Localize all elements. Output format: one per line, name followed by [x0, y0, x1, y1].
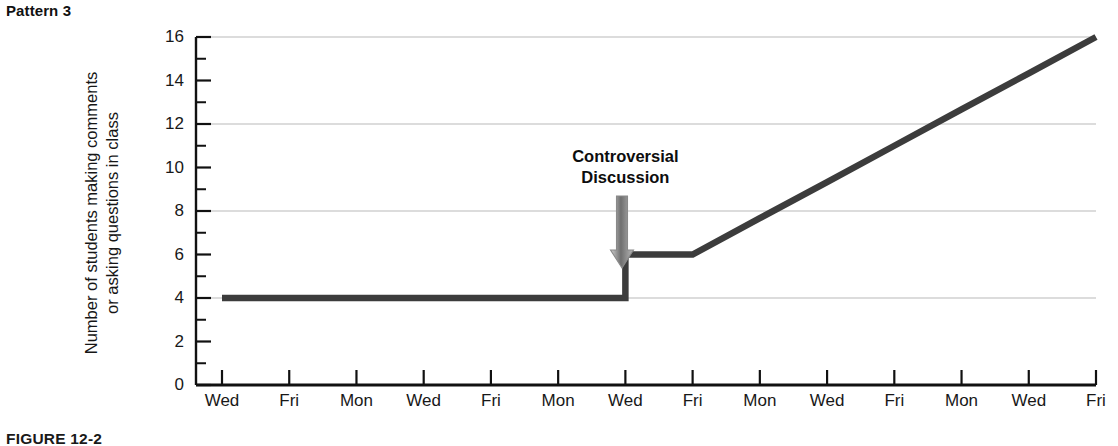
- x-axis-tick-label: Mon: [927, 392, 997, 409]
- y-axis-tick-label: 14: [140, 72, 184, 89]
- x-axis-tick-label: Fri: [859, 392, 929, 409]
- x-axis-ticks: [222, 370, 1096, 385]
- y-axis-tick-label: 12: [140, 115, 184, 132]
- chart-annotation: Controversial Discussion: [515, 146, 735, 188]
- x-axis-tick-label: Fri: [658, 392, 728, 409]
- y-axis-tick-label: 4: [140, 289, 184, 306]
- x-axis-tick-label: Wed: [389, 392, 459, 409]
- x-axis-tick-label: Wed: [994, 392, 1064, 409]
- x-axis-tick-label: Fri: [456, 392, 526, 409]
- y-axis-major-ticks: [196, 37, 211, 385]
- y-axis-tick-label: 0: [140, 376, 184, 393]
- x-axis-tick-label: Wed: [187, 392, 257, 409]
- y-axis-tick-label: 2: [140, 333, 184, 350]
- x-axis-tick-label: Mon: [321, 392, 391, 409]
- y-axis-tick-label: 8: [140, 202, 184, 219]
- figure-caption: FIGURE 12-2: [6, 430, 102, 446]
- x-axis-tick-label: Wed: [590, 392, 660, 409]
- x-axis-tick-label: Wed: [792, 392, 862, 409]
- annotation-line-2: Discussion: [515, 167, 735, 188]
- x-axis-tick-label: Fri: [1061, 392, 1118, 409]
- x-axis-tick-label: Fri: [254, 392, 324, 409]
- y-axis-tick-label: 16: [140, 28, 184, 45]
- x-axis-tick-label: Mon: [523, 392, 593, 409]
- y-axis-tick-label: 10: [140, 159, 184, 176]
- figure-container: Pattern 3 Number of students making comm…: [0, 0, 1118, 446]
- y-axis-tick-label: 6: [140, 246, 184, 263]
- annotation-line-1: Controversial: [515, 146, 735, 167]
- x-axis-tick-label: Mon: [725, 392, 795, 409]
